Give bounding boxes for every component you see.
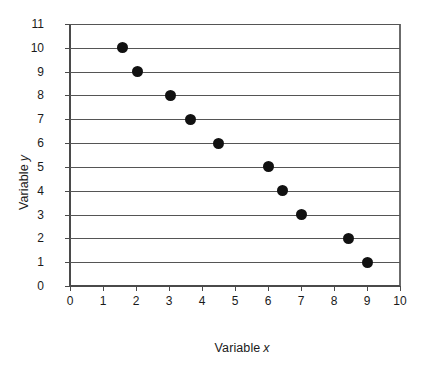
y-tick-mark xyxy=(65,215,70,216)
y-tick-mark xyxy=(65,143,70,144)
x-tick-label: 5 xyxy=(221,295,249,307)
y-tick-mark xyxy=(65,48,70,49)
y-tick-label: 3 xyxy=(18,209,44,221)
x-tick-mark xyxy=(169,286,170,291)
plot-area: 01234567891011 012345678910 xyxy=(70,24,400,286)
y-tick-mark xyxy=(65,95,70,96)
data-point-marker xyxy=(117,42,128,53)
y-tick-mark xyxy=(65,24,70,25)
y-tick-label: 6 xyxy=(18,137,44,149)
data-point-marker xyxy=(277,185,288,196)
data-point-marker xyxy=(213,138,224,149)
x-tick-mark xyxy=(235,286,236,291)
y-tick-mark xyxy=(65,262,70,263)
gridline xyxy=(70,215,400,216)
x-axis-title-text: Variable xyxy=(215,341,261,355)
plot-right-border xyxy=(399,24,401,286)
x-tick-mark xyxy=(103,286,104,291)
y-tick-label: 9 xyxy=(18,66,44,78)
gridline xyxy=(70,167,400,168)
x-axis-title-variable: x xyxy=(260,341,269,355)
y-tick-label: 4 xyxy=(18,185,44,197)
gridline xyxy=(70,72,400,73)
x-tick-label: 7 xyxy=(287,295,315,307)
x-tick-label: 8 xyxy=(320,295,348,307)
y-tick-label: 8 xyxy=(18,89,44,101)
x-tick-mark xyxy=(400,286,401,291)
y-tick-mark xyxy=(65,119,70,120)
x-tick-label: 1 xyxy=(89,295,117,307)
x-tick-mark xyxy=(367,286,368,291)
gridline xyxy=(70,143,400,144)
y-tick-label: 2 xyxy=(18,232,44,244)
data-point-marker xyxy=(185,114,196,125)
gridline xyxy=(70,24,400,25)
x-tick-label: 6 xyxy=(254,295,282,307)
x-tick-mark xyxy=(136,286,137,291)
x-axis-title: Variablex xyxy=(70,327,400,365)
data-point-marker xyxy=(296,209,307,220)
data-point-marker xyxy=(132,66,143,77)
y-tick-label: 5 xyxy=(18,161,44,173)
gridline xyxy=(70,191,400,192)
data-point-marker xyxy=(343,233,354,244)
gridline xyxy=(70,262,400,263)
gridline xyxy=(70,119,400,120)
y-tick-mark xyxy=(65,167,70,168)
x-tick-label: 9 xyxy=(353,295,381,307)
x-tick-label: 2 xyxy=(122,295,150,307)
x-tick-label: 10 xyxy=(386,295,414,307)
x-tick-mark xyxy=(202,286,203,291)
x-tick-label: 4 xyxy=(188,295,216,307)
y-tick-label: 0 xyxy=(18,280,44,292)
x-tick-mark xyxy=(268,286,269,291)
x-tick-mark xyxy=(70,286,71,291)
scatter-chart-figure: Variabley 01234567891011 012345678910 Va… xyxy=(0,0,422,365)
x-tick-label: 0 xyxy=(56,295,84,307)
y-tick-mark xyxy=(65,72,70,73)
x-tick-mark xyxy=(334,286,335,291)
gridline xyxy=(70,95,400,96)
y-tick-label: 1 xyxy=(18,256,44,268)
x-tick-mark xyxy=(301,286,302,291)
y-tick-label: 11 xyxy=(18,18,44,30)
y-tick-label: 10 xyxy=(18,42,44,54)
y-axis-spine xyxy=(69,24,71,286)
data-point-marker xyxy=(165,90,176,101)
y-tick-mark xyxy=(65,191,70,192)
y-tick-mark xyxy=(65,238,70,239)
data-point-marker xyxy=(362,257,373,268)
data-point-marker xyxy=(263,161,274,172)
x-tick-label: 3 xyxy=(155,295,183,307)
y-tick-label: 7 xyxy=(18,113,44,125)
